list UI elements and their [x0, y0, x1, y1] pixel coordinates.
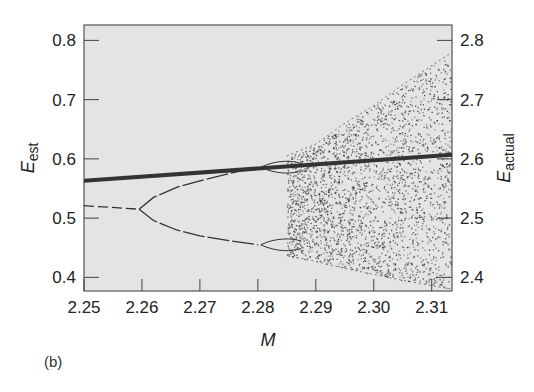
x-axis-title: M [261, 330, 276, 350]
panel-label: (b) [44, 353, 62, 370]
x-tick-label: 2.27 [183, 298, 216, 317]
right-y-tick-label: 2.6 [460, 150, 484, 169]
right-y-tick-label: 2.4 [460, 268, 484, 287]
right-y-tick-label: 2.5 [460, 209, 484, 228]
x-tick-label: 2.26 [125, 298, 158, 317]
x-tick-label: 2.25 [67, 298, 100, 317]
x-tick-label: 2.29 [299, 298, 332, 317]
x-tick-labels: 2.252.262.272.282.292.302.31 [67, 298, 448, 317]
right-y-tick-label: 2.7 [460, 91, 484, 110]
x-tick-label: 2.31 [415, 298, 448, 317]
x-tick-label: 2.28 [241, 298, 274, 317]
left-y-tick-label: 0.5 [52, 209, 76, 228]
left-y-axis-title: Eest [18, 143, 41, 174]
bifurcation-chart: 2.252.262.272.282.292.302.31 0.80.70.60.… [0, 0, 534, 392]
left-y-tick-label: 0.7 [52, 91, 76, 110]
x-tick-label: 2.30 [357, 298, 390, 317]
left-y-tick-label: 0.6 [52, 150, 76, 169]
right-y-tick-labels: 2.82.72.62.52.4 [460, 31, 484, 287]
left-y-tick-labels: 0.80.70.60.50.4 [52, 31, 76, 287]
left-y-tick-label: 0.8 [52, 31, 76, 50]
right-y-tick-label: 2.8 [460, 31, 484, 50]
right-y-axis-title: Eactual [494, 133, 517, 182]
left-y-tick-label: 0.4 [52, 268, 76, 287]
